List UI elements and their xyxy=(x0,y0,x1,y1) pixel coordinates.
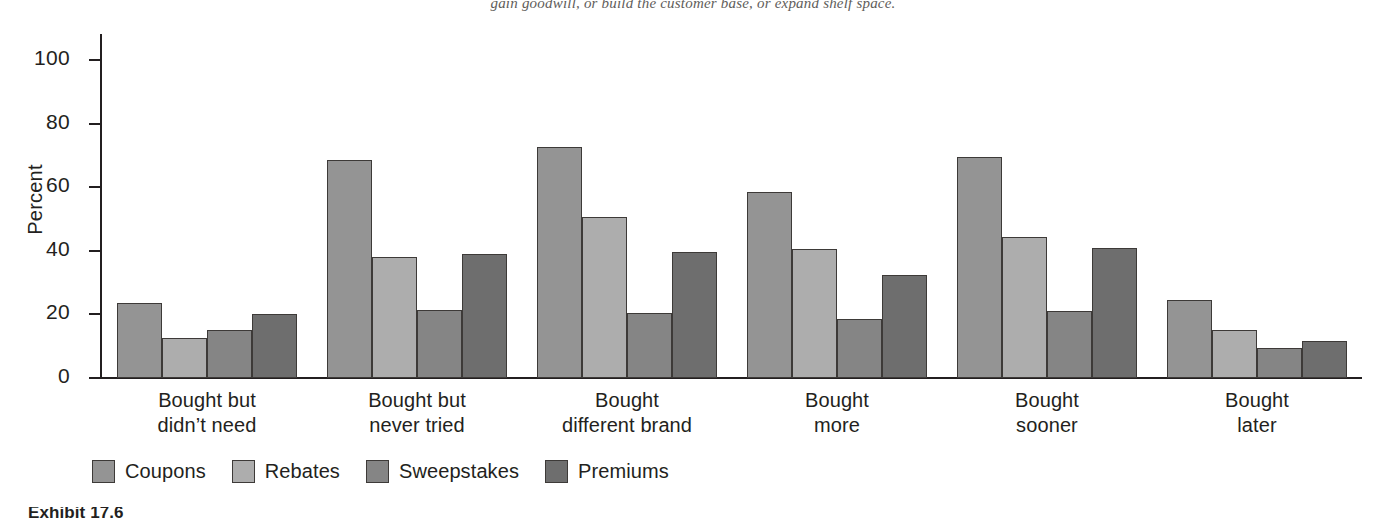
legend-item-premiums[interactable]: Premiums xyxy=(545,460,669,483)
y-axis-tick xyxy=(89,186,101,188)
bar-sweepstakes xyxy=(1257,348,1302,378)
bar-group xyxy=(537,60,717,378)
plot-area xyxy=(102,60,1362,378)
bar-premiums xyxy=(882,275,927,378)
bar-rebates xyxy=(792,249,837,378)
bar-sweepstakes xyxy=(1047,311,1092,378)
bar-coupons xyxy=(747,192,792,378)
bar-premiums xyxy=(1302,341,1347,378)
x-axis-label-line: more xyxy=(732,413,942,438)
bar-sweepstakes xyxy=(207,330,252,378)
legend-swatch-icon xyxy=(232,460,255,483)
bar-sweepstakes xyxy=(417,310,462,378)
y-axis-tick xyxy=(89,59,101,61)
legend-swatch-icon xyxy=(366,460,389,483)
x-axis-label-line: Bought xyxy=(942,388,1152,413)
legend-label: Sweepstakes xyxy=(399,460,519,483)
bar-group xyxy=(747,60,927,378)
y-axis-tick xyxy=(89,377,101,379)
legend-label: Rebates xyxy=(265,460,340,483)
y-axis-tick xyxy=(89,313,101,315)
legend-item-rebates[interactable]: Rebates xyxy=(232,460,340,483)
bar-group xyxy=(327,60,507,378)
bar-chart: 020406080100 Percent Bought butdidn’t ne… xyxy=(0,0,1386,470)
x-axis-label-line: Bought xyxy=(1152,388,1362,413)
x-axis-label: Boughtmore xyxy=(732,388,942,438)
legend-label: Premiums xyxy=(578,460,669,483)
bar-rebates xyxy=(162,338,207,378)
y-axis-tick-label: 20 xyxy=(18,300,70,324)
y-axis-tick xyxy=(89,250,101,252)
x-axis-label-line: Bought but xyxy=(102,388,312,413)
legend-item-sweepstakes[interactable]: Sweepstakes xyxy=(366,460,519,483)
bar-coupons xyxy=(957,157,1002,378)
y-axis-title: Percent xyxy=(24,130,47,270)
bar-sweepstakes xyxy=(627,313,672,378)
x-axis-label: Bought butnever tried xyxy=(312,388,522,438)
chart-legend: CouponsRebatesSweepstakesPremiums xyxy=(92,460,669,483)
x-axis-label-line: later xyxy=(1152,413,1362,438)
x-axis-label: Boughtlater xyxy=(1152,388,1362,438)
x-axis-label-line: different brand xyxy=(522,413,732,438)
y-axis-tick-label: 0 xyxy=(18,364,70,388)
bar-coupons xyxy=(327,160,372,378)
x-axis-label-line: Bought xyxy=(732,388,942,413)
bar-group xyxy=(957,60,1137,378)
bar-coupons xyxy=(537,147,582,378)
x-axis-label-line: Bought but xyxy=(312,388,522,413)
x-axis-label: Boughtsooner xyxy=(942,388,1152,438)
exhibit-caption: Exhibit 17.6 xyxy=(28,507,124,522)
legend-item-coupons[interactable]: Coupons xyxy=(92,460,206,483)
legend-swatch-icon xyxy=(545,460,568,483)
x-axis-label-line: sooner xyxy=(942,413,1152,438)
legend-swatch-icon xyxy=(92,460,115,483)
bar-group xyxy=(117,60,297,378)
bar-rebates xyxy=(582,217,627,378)
legend-label: Coupons xyxy=(125,460,206,483)
y-axis-tick xyxy=(89,123,101,125)
bar-premiums xyxy=(252,314,297,378)
x-axis-label-line: Bought xyxy=(522,388,732,413)
bar-sweepstakes xyxy=(837,319,882,378)
exhibit-caption-text: Exhibit 17.6 xyxy=(28,507,124,521)
x-axis-label: Bought butdidn’t need xyxy=(102,388,312,438)
x-axis-label: Boughtdifferent brand xyxy=(522,388,732,438)
bar-premiums xyxy=(1092,248,1137,378)
bar-premiums xyxy=(672,252,717,378)
bar-group xyxy=(1167,60,1347,378)
bar-rebates xyxy=(1002,237,1047,379)
bar-coupons xyxy=(117,303,162,378)
x-axis-label-line: never tried xyxy=(312,413,522,438)
bar-coupons xyxy=(1167,300,1212,378)
y-axis-tick-label: 100 xyxy=(18,46,70,70)
bar-rebates xyxy=(1212,330,1257,378)
bar-rebates xyxy=(372,257,417,378)
x-axis-label-line: didn’t need xyxy=(102,413,312,438)
bar-premiums xyxy=(462,254,507,378)
